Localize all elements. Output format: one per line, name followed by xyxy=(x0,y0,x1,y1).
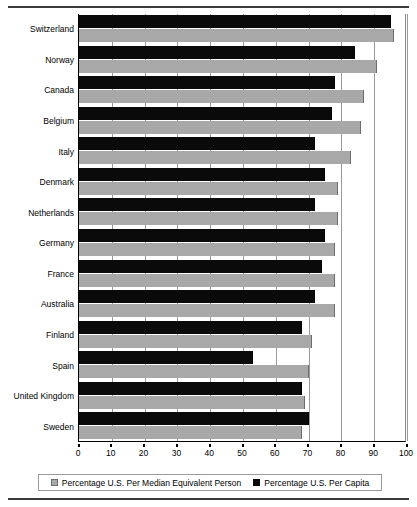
bar-per-median-equivalent-person xyxy=(79,396,305,409)
x-tick-label: 90 xyxy=(368,448,377,458)
x-tick-label: 50 xyxy=(237,448,246,458)
x-tick-mark xyxy=(307,444,309,447)
legend-entry: Percentage U.S. Per Median Equivalent Pe… xyxy=(51,478,242,488)
gridline-100 xyxy=(407,14,408,441)
bar-per-median-equivalent-person xyxy=(79,212,338,225)
bar-per-median-equivalent-person xyxy=(79,243,335,256)
bar-per-median-equivalent-person xyxy=(79,304,335,317)
x-tick-mark xyxy=(176,444,178,447)
x-tick-label: 10 xyxy=(106,448,115,458)
bar-per-median-equivalent-person xyxy=(79,151,351,164)
legend-entry: Percentage U.S. Per Capita xyxy=(253,478,369,488)
bar-row xyxy=(79,381,405,412)
legend-swatch-median xyxy=(51,479,58,486)
bar-row xyxy=(79,136,405,167)
category-label: Denmark xyxy=(0,177,74,187)
bar-row xyxy=(79,411,405,442)
bar-row xyxy=(79,320,405,351)
bar-row xyxy=(79,106,405,137)
x-tick-mark xyxy=(373,444,375,447)
x-tick-mark xyxy=(143,444,145,447)
page-rule-bottom xyxy=(8,498,409,500)
bar-per-median-equivalent-person xyxy=(79,29,394,42)
category-label: Switzerland xyxy=(0,24,74,34)
bar-per-capita xyxy=(79,229,325,242)
x-tick-mark xyxy=(340,444,342,447)
category-axis-labels: SwitzerlandNorwayCanadaBelgiumItalyDenma… xyxy=(0,14,74,442)
bar-per-median-equivalent-person xyxy=(79,365,309,378)
bar-per-median-equivalent-person xyxy=(79,60,377,73)
bar-per-median-equivalent-person xyxy=(79,182,338,195)
bar-chart-figure: SwitzerlandNorwayCanadaBelgiumItalyDenma… xyxy=(0,0,417,507)
bar-per-median-equivalent-person xyxy=(79,335,312,348)
chart-legend: Percentage U.S. Per Median Equivalent Pe… xyxy=(38,474,382,491)
bar-row xyxy=(79,259,405,290)
bar-per-capita xyxy=(79,382,302,395)
category-label: France xyxy=(0,269,74,279)
x-tick-mark xyxy=(274,444,276,447)
category-label: Norway xyxy=(0,55,74,65)
plot-area xyxy=(78,14,406,442)
x-tick-mark xyxy=(242,444,244,447)
x-tick-label: 80 xyxy=(336,448,345,458)
bar-per-median-equivalent-person xyxy=(79,274,335,287)
x-tick-label: 70 xyxy=(303,448,312,458)
bar-per-median-equivalent-person xyxy=(79,426,302,439)
x-tick-label: 60 xyxy=(270,448,279,458)
bar-per-capita xyxy=(79,198,315,211)
bar-per-capita xyxy=(79,412,309,425)
legend-swatch-capita xyxy=(253,479,260,486)
bar-per-median-equivalent-person xyxy=(79,121,361,134)
x-tick-label: 20 xyxy=(139,448,148,458)
bar-row xyxy=(79,14,405,45)
category-label: Australia xyxy=(0,299,74,309)
x-tick-label: 40 xyxy=(204,448,213,458)
x-tick-mark xyxy=(209,444,211,447)
value-axis-labels: 0102030405060708090100 xyxy=(78,444,406,458)
bar-row xyxy=(79,167,405,198)
bar-row xyxy=(79,350,405,381)
category-label: Finland xyxy=(0,330,74,340)
x-tick-label: 100 xyxy=(399,448,413,458)
bar-row xyxy=(79,228,405,259)
bar-per-capita xyxy=(79,15,391,28)
bar-per-capita xyxy=(79,351,253,364)
bar-per-capita xyxy=(79,76,335,89)
bar-per-capita xyxy=(79,168,325,181)
bar-row xyxy=(79,75,405,106)
category-label: Sweden xyxy=(0,422,74,432)
category-label: Netherlands xyxy=(0,208,74,218)
category-label: Belgium xyxy=(0,116,74,126)
bar-per-median-equivalent-person xyxy=(79,90,364,103)
bar-row xyxy=(79,45,405,76)
bar-per-capita xyxy=(79,107,332,120)
x-tick-label: 30 xyxy=(172,448,181,458)
x-tick-mark xyxy=(406,444,408,447)
x-tick-mark xyxy=(78,444,80,447)
bar-per-capita xyxy=(79,321,302,334)
bar-row xyxy=(79,197,405,228)
category-label: United Kingdom xyxy=(0,391,74,401)
legend-label: Percentage U.S. Per Median Equivalent Pe… xyxy=(62,478,242,488)
category-label: Spain xyxy=(0,361,74,371)
page-rule-top xyxy=(8,6,409,8)
bar-row xyxy=(79,289,405,320)
x-tick-mark xyxy=(110,444,112,447)
legend-label: Percentage U.S. Per Capita xyxy=(264,478,369,488)
category-label: Canada xyxy=(0,85,74,95)
category-label: Germany xyxy=(0,238,74,248)
bar-per-capita xyxy=(79,137,315,150)
bar-per-capita xyxy=(79,46,355,59)
bar-per-capita xyxy=(79,260,322,273)
category-label: Italy xyxy=(0,147,74,157)
x-tick-label: 0 xyxy=(76,448,81,458)
bar-per-capita xyxy=(79,290,315,303)
bar-rows xyxy=(79,14,405,441)
